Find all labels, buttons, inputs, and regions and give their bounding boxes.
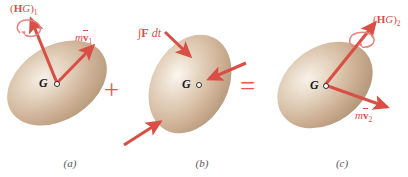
plus-operator: +: [104, 77, 119, 104]
angular-momentum-label-c-text: (HG)2: [373, 13, 401, 25]
linear-momentum-label-a: mv1: [75, 31, 92, 46]
equals-operator: =: [240, 73, 255, 100]
angular-momentum-label-c: (HG)2: [373, 13, 401, 28]
panel-caption-c: (c): [272, 157, 408, 169]
panel-c: (HG)2 mv2 G (c): [272, 0, 408, 177]
linear-momentum-label-c: mv2: [355, 109, 372, 124]
center-of-mass-dot-c: [323, 83, 329, 89]
center-of-mass-label-a: G: [39, 76, 48, 91]
center-of-mass-label-b: G: [182, 77, 191, 92]
panel-caption-a: (a): [0, 157, 140, 169]
center-of-mass-dot-a: [54, 81, 60, 87]
center-of-mass-label-c: G: [310, 78, 319, 93]
impulse-momentum-figure: (HG)1 mv1 G (a) ∫F dt G (b) (HG)2 mv2 G …: [0, 0, 408, 177]
linear-momentum-label-c-text: mv2: [355, 109, 372, 121]
angular-momentum-label-a-text: (HG)1: [10, 2, 38, 14]
center-of-mass-dot-b: [196, 82, 202, 88]
panel-caption-b: (b): [132, 157, 272, 169]
angular-momentum-label-a: (HG)1: [10, 2, 38, 17]
linear-momentum-label-a-text: mv1: [75, 31, 92, 43]
impulse-label-b-text: ∫F dt: [138, 26, 161, 40]
impulse-label-b: ∫F dt: [138, 26, 161, 41]
